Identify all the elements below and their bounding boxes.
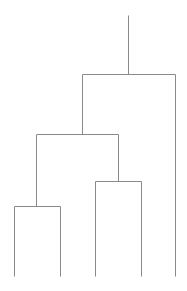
dendrogram — [0, 0, 187, 291]
dendrogram-canvas — [0, 0, 187, 291]
